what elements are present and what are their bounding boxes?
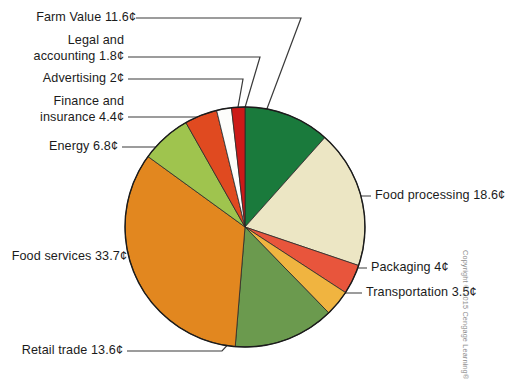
label-transportation: Transportation 3.5¢ bbox=[366, 285, 505, 301]
label-retail-trade: Retail trade 13.6¢ bbox=[4, 343, 123, 359]
label-food-services: Food services 33.7¢ bbox=[4, 249, 127, 265]
label-advertising: Advertising 2¢ bbox=[4, 71, 124, 87]
pie-slices bbox=[125, 107, 365, 347]
label-finance-insurance: Finance and insurance 4.4¢ bbox=[4, 94, 124, 125]
label-energy: Energy 6.8¢ bbox=[4, 139, 118, 155]
label-packaging: Packaging 4¢ bbox=[371, 260, 491, 276]
label-legal-accounting: Legal and accounting 1.8¢ bbox=[4, 33, 124, 64]
leader-farm-value bbox=[136, 18, 301, 122]
label-farm-value: Farm Value 11.6¢ bbox=[4, 10, 136, 26]
copyright-notice: Copyright © 2015 Cengage Learning® bbox=[461, 250, 470, 360]
label-food-processing: Food processing 18.6¢ bbox=[375, 188, 505, 204]
